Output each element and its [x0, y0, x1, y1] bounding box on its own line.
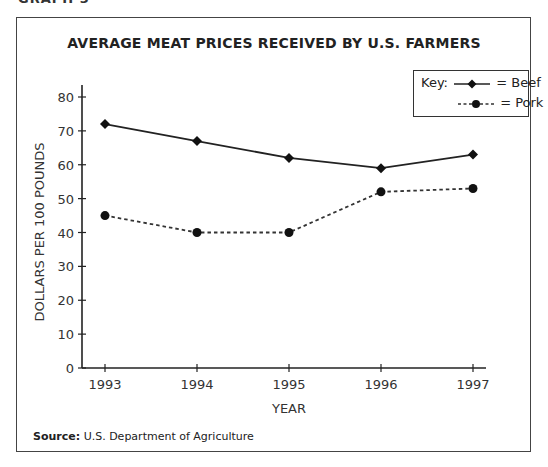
pork-point-circle-icon — [193, 228, 202, 237]
y-tick-label: 60 — [57, 158, 74, 173]
beef-point-diamond-icon — [468, 150, 478, 160]
axes: 0102030405060708019931994199519961997 — [57, 85, 489, 392]
y-axis-title: DOLLARS PER 100 POUNDS — [32, 142, 47, 321]
y-tick-label: 10 — [57, 327, 74, 342]
beef-line-diamond-icon — [452, 78, 492, 90]
pork-dashed-circle-icon — [456, 98, 496, 110]
source-note: Source: U.S. Department of Agriculture — [33, 430, 254, 443]
x-axis-title: YEAR — [271, 401, 306, 416]
pork-point-circle-icon — [285, 228, 294, 237]
x-tick-label: 1995 — [272, 377, 305, 392]
y-tick-label: 70 — [57, 124, 74, 139]
pork-point-circle-icon — [469, 184, 478, 193]
source-label: Source: — [33, 430, 80, 443]
legend-row-pork: = Pork — [456, 95, 543, 110]
beef-point-diamond-icon — [284, 153, 294, 163]
legend-pork-label: = Pork — [500, 95, 543, 110]
x-tick-label: 1993 — [88, 377, 121, 392]
y-tick-label: 40 — [57, 226, 74, 241]
legend-key-label: Key: — [421, 75, 448, 90]
legend: Key: = Beef = Pork — [413, 70, 529, 117]
source-text: U.S. Department of Agriculture — [84, 430, 254, 443]
y-tick-label: 50 — [57, 192, 74, 207]
x-tick-label: 1997 — [456, 377, 489, 392]
pork-line — [105, 188, 473, 232]
x-tick-label: 1996 — [364, 377, 397, 392]
x-tick-label: 1994 — [180, 377, 213, 392]
beef-point-diamond-icon — [376, 163, 386, 173]
beef-point-diamond-icon — [192, 136, 202, 146]
series-group — [100, 119, 478, 237]
y-tick-label: 30 — [57, 259, 74, 274]
pork-point-circle-icon — [101, 211, 110, 220]
beef-point-diamond-icon — [100, 119, 110, 129]
y-tick-label: 20 — [57, 293, 74, 308]
y-tick-label: 80 — [57, 90, 74, 105]
y-tick-label: 0 — [66, 361, 74, 376]
legend-row-beef: Key: = Beef — [421, 75, 541, 90]
pork-point-circle-icon — [377, 187, 386, 196]
legend-beef-label: = Beef — [496, 75, 541, 90]
